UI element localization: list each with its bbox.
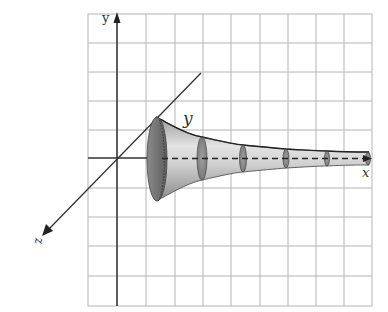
y-axis-label: y <box>101 10 110 25</box>
z-axis-label: z <box>31 237 45 245</box>
curve-label: y <box>182 108 193 128</box>
x-axis-label: x <box>362 165 370 180</box>
solid-of-revolution-diagram: y z x y <box>0 0 388 312</box>
